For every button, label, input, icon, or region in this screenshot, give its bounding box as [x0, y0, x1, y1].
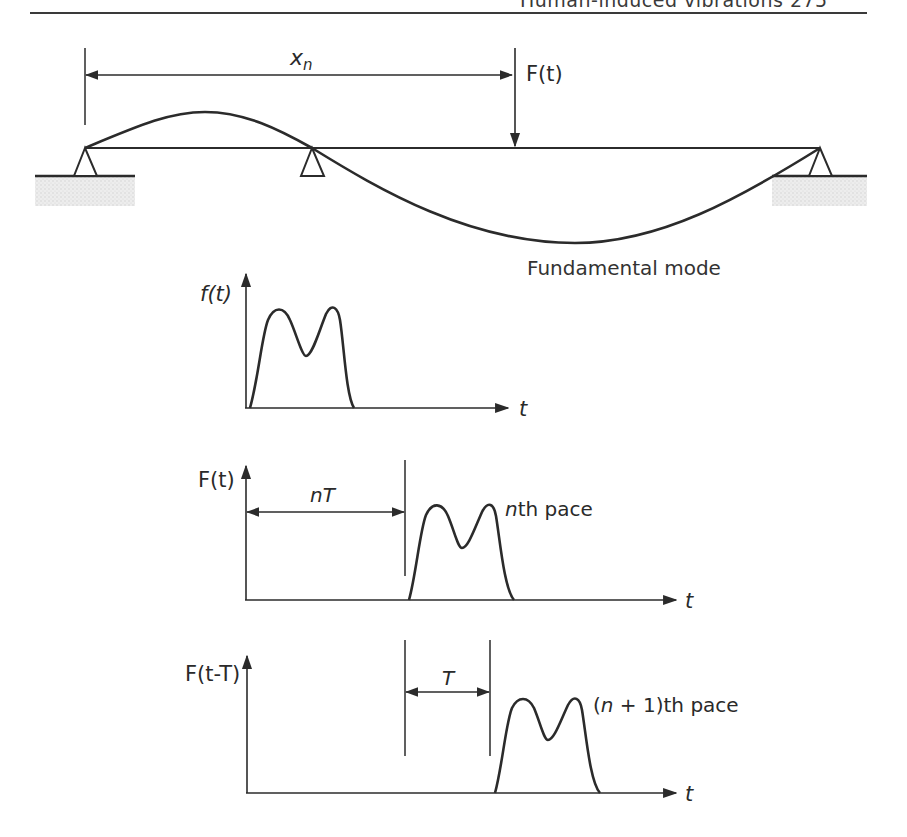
figure-canvas — [0, 0, 907, 837]
graph3-y-label: F(t-T) — [185, 662, 240, 686]
graph-F-of-t — [245, 460, 676, 600]
nT-label: nT — [310, 483, 335, 507]
beam-diagram — [35, 48, 867, 243]
xn-label-subscript: n — [303, 56, 313, 74]
support-left-icon — [74, 148, 97, 176]
graph3-x-label: t — [685, 782, 693, 806]
n-plus-1th-pace-pulse-curve — [495, 699, 600, 793]
nth-pace-label-rest: th pace — [518, 497, 593, 521]
xn-label: xn — [290, 45, 313, 74]
ground-right — [772, 176, 867, 206]
nth-pace-label-n: n — [505, 497, 518, 521]
footfall-pulse-curve — [250, 307, 354, 408]
graph2-x-label: t — [685, 589, 693, 613]
graph1-x-label: t — [519, 397, 527, 421]
xn-label-base: x — [290, 45, 303, 70]
mode-shape-curve — [85, 112, 820, 243]
n-plus-1th-pace-label: (n + 1)th pace — [593, 693, 739, 717]
graph1-y-label: f(t) — [200, 282, 232, 306]
nth-pace-label: nth pace — [505, 497, 593, 521]
graph2-y-label: F(t) — [198, 468, 235, 492]
ground-left — [35, 176, 135, 206]
nth-pace-pulse-curve — [409, 505, 514, 600]
graph-f-of-t — [245, 274, 508, 408]
fundamental-mode-label: Fundamental mode — [527, 256, 721, 280]
force-label: F(t) — [526, 62, 563, 86]
n-plus-1th-pace-rest: + 1)th pace — [614, 693, 739, 717]
n-plus-1th-pace-n: n — [601, 693, 614, 717]
n-plus-1th-pace-prefix: ( — [593, 693, 601, 717]
T-label: T — [442, 666, 454, 690]
